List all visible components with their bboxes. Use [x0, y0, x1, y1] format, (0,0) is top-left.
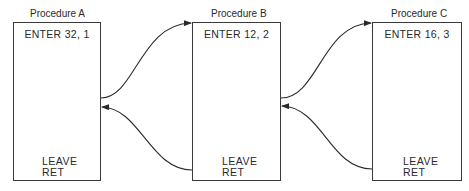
call-arrow-b-to-c — [281, 23, 371, 98]
call-arrow-a-to-b — [101, 23, 191, 98]
return-arrow-c-to-b — [282, 106, 372, 169]
return-arrow-b-to-a — [102, 107, 192, 170]
call-arrows — [0, 0, 469, 191]
